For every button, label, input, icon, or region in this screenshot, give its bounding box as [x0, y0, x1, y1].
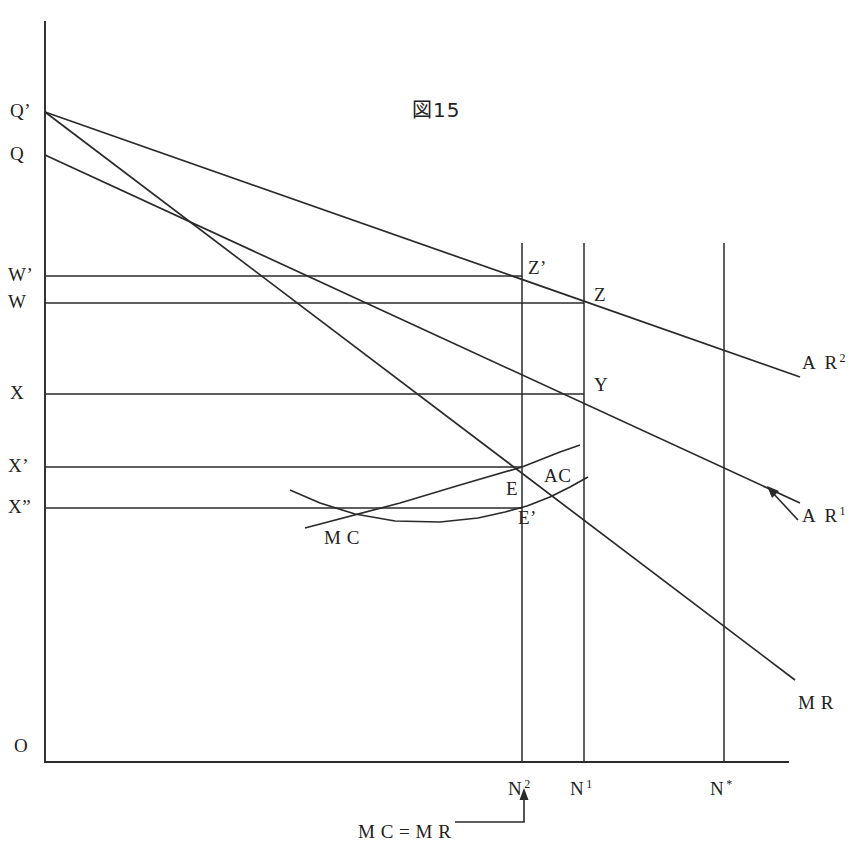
point-label-Z-prime: Z’ [528, 258, 547, 277]
curve-MR [45, 112, 795, 680]
annotation-mc-equals-mr: M C = M R [358, 822, 451, 841]
point-label-Z: Z [594, 285, 606, 304]
point-label-E: E [506, 479, 518, 498]
y-axis-label-X-double-prime: X” [8, 497, 31, 516]
curve-AR1 [45, 155, 800, 503]
point-label-E-prime: E’ [518, 508, 537, 527]
curve-label-AR1: A R1 [802, 505, 846, 525]
x-axis-label-Nstar: N* [710, 778, 732, 798]
quantity-verticals-group [522, 243, 724, 762]
origin-label: O [14, 736, 28, 755]
axes-group [45, 22, 788, 762]
y-axis-label-Q-prime: Q’ [10, 101, 31, 120]
curve-label-MR: M R [798, 693, 834, 712]
y-axis-label-X: X [10, 383, 24, 402]
figure-container: Q’QW’WXX’X”N2N1N*A R2A R1M RM CACZ’ZYEE’… [0, 0, 860, 867]
diagram-canvas [0, 0, 860, 867]
ar1-arrowhead [767, 486, 779, 498]
annotation-lines-group [455, 486, 798, 822]
point-label-Y: Y [594, 375, 608, 394]
curves-group [45, 112, 800, 680]
figure-title: 図15 [412, 100, 460, 120]
curve-label-MC: M C [324, 528, 360, 547]
y-axis-label-Q: Q [10, 144, 24, 163]
mc-mr-leader-line [455, 797, 524, 822]
x-axis-label-N1: N1 [570, 778, 592, 798]
y-axis-label-X-prime: X’ [8, 456, 29, 475]
curve-label-AR2: A R2 [802, 352, 846, 372]
curve-label-AC: AC [544, 466, 571, 485]
x-axis-label-N2: N2 [508, 778, 530, 798]
curve-AR2 [45, 112, 800, 377]
y-axis-label-W-prime: W’ [8, 265, 33, 284]
y-axis-label-W: W [8, 292, 26, 311]
